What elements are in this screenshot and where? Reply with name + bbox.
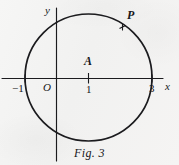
- origin-label: O: [43, 82, 51, 93]
- figure-caption: Fig. 3: [0, 146, 179, 161]
- tick-label-minus-one: −1: [12, 83, 24, 94]
- point-p-label: P: [127, 9, 134, 21]
- y-axis-label: y: [45, 5, 50, 16]
- tick-label-three: 3: [149, 83, 155, 94]
- x-axis-label: x: [165, 81, 170, 92]
- point-a-label: A: [84, 55, 92, 67]
- tick-label-one: 1: [86, 84, 92, 95]
- figure-container: y x O −1 1 3 A P Fig. 3: [0, 0, 179, 165]
